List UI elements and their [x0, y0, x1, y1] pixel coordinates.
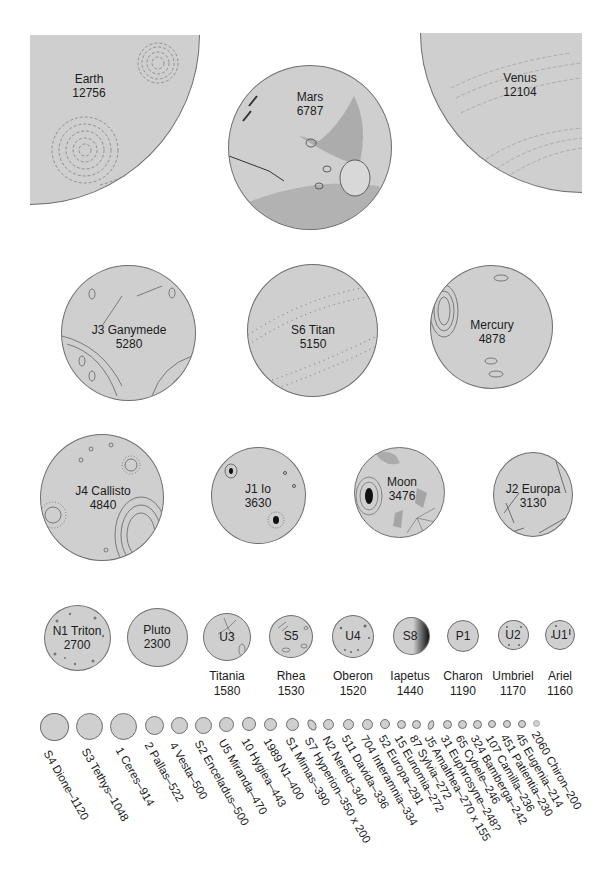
pallas-body: [145, 716, 164, 735]
cybele-body: [458, 720, 467, 729]
charon-code: P1: [456, 629, 471, 643]
ariel-diameter: 1160: [547, 684, 573, 699]
titan-label: S6 Titan 5150: [291, 323, 335, 351]
mercury-label: Mercury 4878: [470, 318, 513, 346]
rhea-code: S5: [284, 629, 299, 643]
callisto-label: J4 Callisto 4840: [75, 484, 130, 512]
io-name: J1 Io: [245, 482, 272, 496]
nereid-body: [323, 719, 334, 730]
rhea-diameter: 1530: [277, 684, 306, 699]
ariel-code: U1: [552, 628, 567, 642]
venus-body: [420, 33, 582, 193]
oberon-name: Oberon: [333, 669, 373, 684]
amalthea-body: [426, 719, 435, 730]
umbriel-code: U2: [505, 628, 520, 642]
triton-name: N1 Triton: [53, 624, 102, 638]
ceres-body: [110, 713, 137, 740]
iapetus-diameter: 1440: [390, 684, 429, 699]
tethys-body: [76, 713, 103, 740]
charon-diameter: 1190: [443, 684, 482, 699]
mars-diameter: 6787: [297, 104, 324, 118]
hyperion-body: [306, 718, 319, 732]
titania-code: U3: [219, 630, 234, 644]
titania-name: Titania: [209, 669, 245, 684]
camilla-body: [488, 720, 496, 728]
earth-body: [30, 35, 200, 205]
moon-diameter: 3476: [387, 489, 417, 503]
europa-diameter: 3130: [506, 496, 561, 510]
bamberga-body: [473, 720, 482, 729]
iapetus-caption: Iapetus 1440: [390, 669, 429, 699]
sylvia-body: [412, 720, 421, 729]
umbriel-name: Umbriel: [492, 669, 533, 684]
interamnia-body: [362, 719, 373, 730]
moon-name: Moon: [387, 475, 417, 489]
callisto-diameter: 4840: [75, 498, 130, 512]
titan-name: S6 Titan: [291, 323, 335, 337]
rhea-caption: Rhea 1530: [277, 669, 306, 699]
eugenia-body: [518, 720, 526, 728]
io-label: J1 Io 3630: [245, 482, 272, 510]
vesta-body: [171, 717, 188, 734]
triton-label: N1 Triton 2700: [53, 624, 102, 652]
pluto-name: Pluto: [143, 623, 170, 637]
europa-label: J2 Europa 3130: [506, 482, 561, 510]
europa-name: J2 Europa: [506, 482, 561, 496]
earth-name: Earth: [72, 72, 105, 86]
mercury-name: Mercury: [470, 318, 513, 332]
ariel-name: Ariel: [547, 669, 573, 684]
titania-caption: Titania 1580: [209, 669, 245, 699]
venus-diameter: 12104: [503, 85, 536, 99]
davida-body: [343, 719, 354, 730]
chiron-body: [533, 720, 540, 727]
iapetus-code: S8: [403, 629, 418, 643]
io-diameter: 3630: [245, 496, 272, 510]
pluto-label: Pluto 2300: [143, 623, 170, 651]
titan-diameter: 5150: [291, 337, 335, 351]
patientia-body: [503, 720, 511, 728]
umbriel-diameter: 1170: [492, 684, 533, 699]
oberon-code: U4: [345, 629, 360, 643]
enceladus-body: [195, 717, 212, 734]
charon-name: Charon: [443, 669, 482, 684]
iapetus-name: Iapetus: [390, 669, 429, 684]
1989n1-body: [264, 718, 277, 731]
callisto-name: J4 Callisto: [75, 484, 130, 498]
mars-label: Mars 6787: [297, 90, 324, 118]
earth-diameter: 12756: [72, 86, 105, 100]
europa52-body: [380, 719, 390, 729]
ganymede-label: J3 Ganymede 5280: [92, 323, 167, 351]
mars-name: Mars: [297, 90, 324, 104]
solar-system-size-diagram: Earth 12756 Venus 12104 Mars 6787: [0, 0, 613, 880]
venus-label: Venus 12104: [503, 71, 536, 99]
oberon-diameter: 1520: [333, 684, 373, 699]
charon-caption: Charon 1190: [443, 669, 482, 699]
hygiea-body: [242, 717, 256, 731]
ganymede-name: J3 Ganymede: [92, 323, 167, 337]
rhea-name: Rhea: [277, 669, 306, 684]
venus-name: Venus: [503, 71, 536, 85]
eunomia-body: [397, 720, 406, 729]
triton-diameter: 2700: [53, 638, 102, 652]
earth-label: Earth 12756: [72, 72, 105, 100]
umbriel-caption: Umbriel 1170: [492, 669, 533, 699]
oberon-caption: Oberon 1520: [333, 669, 373, 699]
mimas-body: [286, 718, 299, 731]
titania-diameter: 1580: [209, 684, 245, 699]
moon-label: Moon 3476: [387, 475, 417, 503]
pluto-diameter: 2300: [143, 637, 170, 651]
dione-body: [40, 713, 69, 741]
mercury-diameter: 4878: [470, 332, 513, 346]
earth-cloud-swirls: [30, 35, 200, 205]
venus-cloud-bands: [421, 33, 582, 193]
ganymede-diameter: 5280: [92, 337, 167, 351]
miranda-body: [219, 717, 234, 732]
euphrosyne-body: [443, 720, 452, 729]
ariel-caption: Ariel 1160: [547, 669, 573, 699]
